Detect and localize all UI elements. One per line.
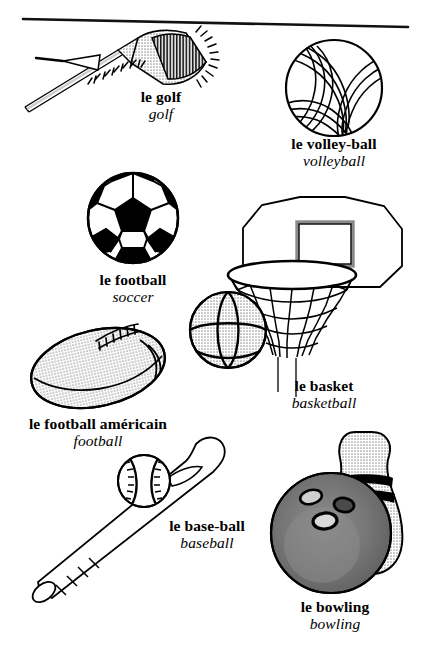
caption-bowling: le bowling bowling (301, 598, 370, 633)
caption-volleyball-en: volleyball (291, 152, 376, 169)
football-laces (96, 324, 141, 350)
illustrated-vocabulary-page: le golf golf le volley-ball volleyball l… (0, 0, 429, 670)
caption-basketball: le basket basketball (292, 377, 357, 412)
top-rule-divider (23, 19, 408, 27)
sports-illustrations (0, 0, 429, 670)
bowling-pin-icon (333, 432, 403, 574)
caption-volleyball-fr: le volley-ball (291, 135, 376, 152)
caption-soccer-en: soccer (100, 288, 167, 305)
caption-baseball-en: baseball (169, 534, 245, 551)
caption-golf-en: golf (141, 105, 182, 122)
basketball-hoop-icon (228, 197, 402, 397)
caption-bowling-fr: le bowling (301, 598, 370, 615)
caption-baseball: le base-ball baseball (169, 517, 245, 552)
caption-football: le football américain football (29, 415, 167, 450)
caption-basketball-en: basketball (292, 394, 357, 411)
golf-tee-pointer (36, 55, 100, 70)
caption-golf-fr: le golf (141, 88, 182, 105)
caption-soccer: le football soccer (100, 271, 167, 306)
soccer-ball-icon (74, 157, 192, 268)
caption-volleyball: le volley-ball volleyball (291, 135, 376, 170)
american-football-icon (23, 316, 173, 421)
basketball-ball-icon (190, 292, 266, 368)
caption-soccer-fr: le football (100, 271, 167, 288)
baseball-icon (118, 455, 170, 507)
caption-basketball-fr: le basket (292, 377, 357, 394)
bowling-ball-icon (271, 473, 391, 593)
basketball-net (231, 279, 352, 358)
caption-football-fr: le football américain (29, 415, 167, 432)
golf-club-icon (25, 26, 219, 112)
caption-football-en: football (29, 432, 167, 449)
caption-bowling-en: bowling (301, 615, 370, 632)
caption-baseball-fr: le base-ball (169, 517, 245, 534)
caption-golf: le golf golf (141, 88, 182, 123)
